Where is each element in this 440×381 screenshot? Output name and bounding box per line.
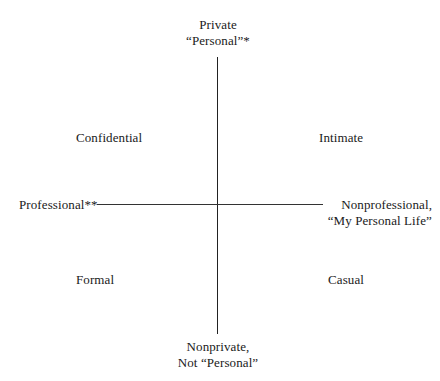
axis-label-bottom-line1: Nonprivate, xyxy=(158,339,278,355)
axis-label-right-line2: “My Personal Life” xyxy=(318,213,432,229)
horizontal-axis-line xyxy=(97,204,323,205)
axis-label-right-nonprofessional: Nonprofessional, “My Personal Life” xyxy=(318,197,432,229)
vertical-axis-line xyxy=(217,57,218,334)
quadrant-label-formal: Formal xyxy=(76,272,114,288)
axis-label-bottom-nonprivate: Nonprivate, Not “Personal” xyxy=(158,339,278,371)
axis-label-top-line1: Private xyxy=(168,17,268,33)
axis-label-top-line2: “Personal”* xyxy=(168,33,268,49)
quadrant-diagram: Private “Personal”* Nonprivate, Not “Per… xyxy=(0,0,440,381)
quadrant-label-confidential: Confidential xyxy=(76,130,142,146)
axis-label-left-line1: Professional** xyxy=(19,197,98,212)
quadrant-label-casual: Casual xyxy=(328,272,364,288)
axis-label-right-line1: Nonprofessional, xyxy=(318,197,432,213)
axis-label-top-private: Private “Personal”* xyxy=(168,17,268,49)
quadrant-label-intimate: Intimate xyxy=(319,130,363,146)
axis-label-left-professional: Professional** xyxy=(19,197,98,213)
axis-label-bottom-line2: Not “Personal” xyxy=(158,355,278,371)
